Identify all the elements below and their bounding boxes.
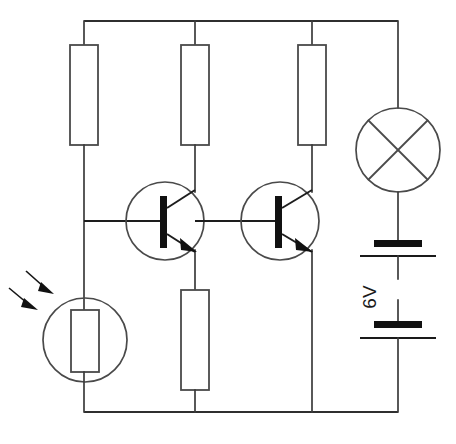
resistor-bottom-middle (181, 290, 209, 390)
branch-right-middle (195, 21, 326, 412)
transistor-npn-right (241, 182, 319, 260)
q1-collector-lead (167, 190, 195, 208)
branch-middle (181, 21, 209, 412)
incident-light-arrows (9, 271, 54, 310)
resistor-top-right (298, 45, 326, 145)
battery: 6V (359, 240, 436, 338)
battery-cell2-short-plate (374, 321, 422, 328)
q1-base-bar (160, 196, 167, 248)
q2-collector-lead (282, 190, 312, 208)
ldr-resistor-body (71, 310, 99, 372)
light-arrow-2-head (21, 298, 38, 310)
branch-right: 6V (356, 21, 440, 412)
transistor-npn-left (126, 182, 204, 260)
branch-left (43, 21, 135, 412)
circuit-diagram: 6V (0, 0, 456, 444)
battery-cell1-short-plate (374, 240, 422, 247)
battery-voltage-label: 6V (359, 285, 380, 309)
resistor-top-middle (181, 45, 209, 145)
q2-base-bar (275, 196, 282, 248)
resistor-top-left (70, 45, 98, 145)
